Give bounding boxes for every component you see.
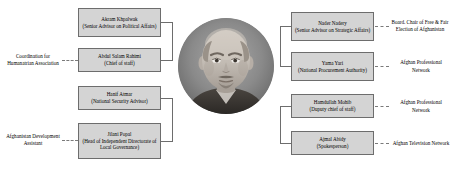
node-right-2[interactable]: Yama Yari (National Procurement Authorit…: [291, 52, 374, 81]
leader-right-4: [375, 143, 389, 144]
org-relationship-diagram: Akram Khpalwak (Senior Advisor on Politi…: [0, 0, 454, 175]
leader-right-2: [375, 66, 389, 67]
label-right-1: Board. Chair of Free & Fair Election of …: [389, 6, 451, 46]
node-right-4[interactable]: Ajmal Abidy (Spokesperson): [291, 131, 374, 155]
node-right-2-name: Yama Yari: [322, 60, 343, 67]
node-left-2-role: (Chief of staff): [104, 60, 134, 67]
connector-right-3-stub: [280, 106, 291, 107]
node-right-4-name: Ajmal Abidy: [319, 136, 345, 143]
node-left-2-name: Abdul Salam Rahimi: [98, 53, 141, 60]
node-right-3[interactable]: Hamdullah Mohib (Duputy chief of staff): [291, 94, 374, 118]
node-right-1[interactable]: Nader Nadery (Senior Advisor on Strategi…: [291, 12, 374, 41]
node-left-1-role: (Senior Advisor on Political Affairs): [82, 23, 156, 30]
connector-left-3-stub: [161, 98, 172, 99]
label-left-1: Coordination for Humanatrian Association: [4, 46, 62, 74]
connector-left-2-stub: [161, 60, 172, 61]
connector-right-1-stub: [280, 26, 291, 27]
label-right-4-text: Afghan Television Network: [393, 140, 450, 147]
node-left-1-name: Akram Khpalwak: [101, 16, 137, 23]
label-left-1-text: Coordination for Humanatrian Association: [4, 53, 62, 67]
node-left-3-name: Hanif Atmar: [107, 91, 133, 98]
leader-right-1: [375, 26, 389, 27]
node-right-1-role: (Senior Advisor on Strategic Affairs): [295, 27, 370, 34]
leader-left-1: [62, 60, 78, 61]
node-left-1[interactable]: Akram Khpalwak (Senior Advisor on Politi…: [78, 8, 161, 37]
connector-left-1-stub: [161, 22, 172, 23]
node-left-4-role: (Head of Independent Directorate of Loca…: [81, 138, 158, 151]
node-left-3-role: (National Security Advisor): [91, 98, 148, 105]
node-right-4-role: (Spokesperson): [317, 143, 349, 150]
node-right-3-role: (Duputy chief of staff): [310, 106, 356, 113]
node-right-1-name: Nader Nadery: [318, 20, 347, 27]
node-left-2[interactable]: Abdul Salam Rahimi (Chief of staff): [78, 48, 161, 72]
leader-left-2: [62, 140, 78, 141]
label-left-2-text: Afghanistan Development Assistant: [4, 133, 62, 147]
central-portrait: [178, 18, 274, 114]
label-right-4: Afghan Television Network: [391, 130, 451, 157]
node-right-3-name: Hamdullah Mohib: [314, 99, 352, 106]
label-right-3-text: Afghan Professional Network: [391, 99, 451, 113]
node-right-2-role: (National Procurement Authority): [298, 67, 367, 74]
connector-right-bracket-upper: [280, 26, 281, 67]
connector-left-4-stub: [161, 141, 172, 142]
label-right-2-text: Afghan Professional Network: [391, 59, 451, 73]
connector-right-4-stub: [280, 143, 291, 144]
node-left-3[interactable]: Hanif Atmar (National Security Advisor): [78, 86, 161, 110]
label-right-3: Afghan Professional Network: [391, 93, 451, 120]
node-left-4[interactable]: Jilani Popal (Head of Independent Direct…: [78, 123, 161, 159]
connector-left-bracket-lower: [172, 98, 173, 142]
leader-right-3: [375, 106, 389, 107]
connector-right-2-stub: [280, 66, 291, 67]
node-left-4-name: Jilani Popal: [108, 131, 132, 138]
connector-right-bracket-lower: [280, 106, 281, 144]
label-right-1-text: Board. Chair of Free & Fair Election of …: [389, 19, 451, 33]
label-right-2: Afghan Professional Network: [391, 53, 451, 80]
connector-left-bracket-upper: [172, 22, 173, 61]
label-left-2: Afghanistan Development Assistant: [4, 126, 62, 154]
